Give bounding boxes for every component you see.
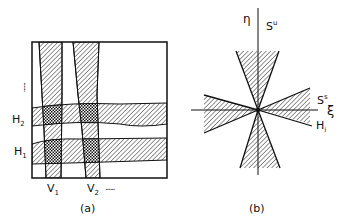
label-v1: V1: [47, 183, 59, 197]
caption-a: (a): [80, 203, 95, 214]
cone-down: [240, 110, 280, 168]
label-su: Su: [266, 20, 277, 32]
panel-a-graphic: [32, 42, 167, 178]
label-xi: ξ: [327, 104, 334, 117]
label-eta: η: [243, 13, 251, 25]
label-v2: V2: [87, 183, 99, 197]
label-h2: H2: [12, 114, 25, 128]
ellipsis-v-label: ......: [105, 184, 114, 192]
label-hi: Hi: [316, 120, 326, 134]
caption-b: (b): [249, 203, 265, 214]
label-h1: H1: [14, 146, 27, 160]
panel-b-graphic: [191, 8, 318, 175]
ellipsis-h-label: ......: [22, 82, 30, 91]
